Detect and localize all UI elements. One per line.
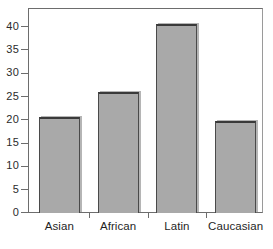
y-axis-tick	[21, 96, 28, 97]
y-axis-tick-label: 10	[0, 160, 19, 171]
y-axis-tick-label: 20	[0, 114, 19, 125]
y-axis-tick-label: 40	[0, 21, 19, 32]
bar	[98, 92, 139, 213]
y-axis-tick	[21, 119, 28, 120]
y-axis-tick-label: 15	[0, 137, 19, 148]
y-axis-tick-label: 35	[0, 44, 19, 55]
x-axis-category-label: African	[89, 220, 148, 233]
y-axis-tick	[21, 166, 28, 167]
x-axis-tick	[89, 213, 90, 218]
bar	[156, 24, 197, 213]
y-axis-tick	[21, 143, 28, 144]
x-axis-tick	[206, 213, 207, 218]
x-axis-category-label: Asian	[30, 220, 89, 233]
bar-chart: 0510152025303540 AsianAfricanLatinCaucas…	[0, 0, 273, 249]
bar	[39, 117, 80, 213]
y-axis-tick-label: 5	[0, 184, 19, 195]
y-axis-tick	[21, 26, 28, 27]
x-axis-tick	[148, 213, 149, 218]
bar	[215, 121, 256, 213]
y-axis-tick	[21, 49, 28, 50]
y-axis-tick	[21, 212, 28, 213]
y-axis-tick	[21, 189, 28, 190]
x-axis-category-label: Latin	[148, 220, 207, 233]
x-axis-category-label: Caucasian	[206, 220, 265, 233]
y-axis-tick-label: 25	[0, 91, 19, 102]
y-axis-tick-label: 0	[0, 207, 19, 218]
y-axis-tick	[21, 73, 28, 74]
y-axis-tick-label: 30	[0, 67, 19, 78]
